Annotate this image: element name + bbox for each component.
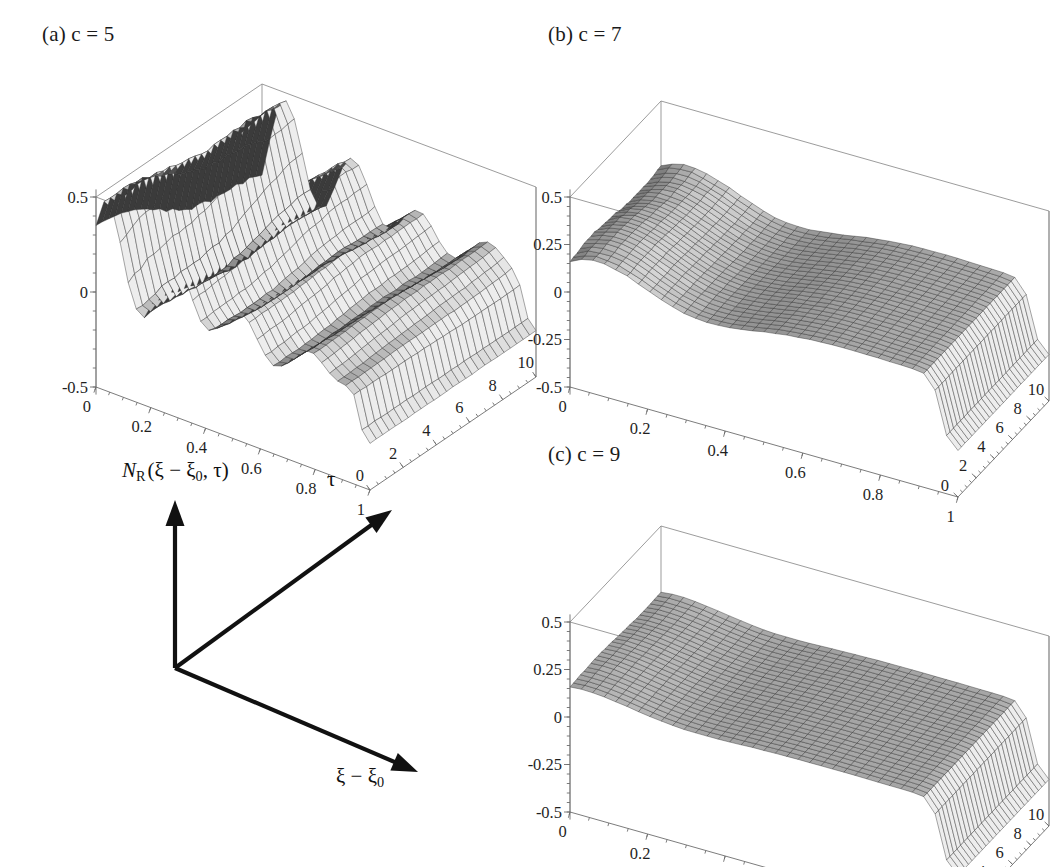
panel-a-plot: 0.50-0.500.20.40.60.810246810 [0, 0, 520, 430]
legend-N-subscript: R [136, 468, 146, 484]
figure-root: (a) c = 5 0.50-0.500.20.40.60.810246810 … [0, 0, 1057, 867]
z-tick-label: 0.5 [67, 188, 88, 207]
z-tick-label: 0.25 [533, 660, 562, 679]
z-tick-label: 0 [80, 283, 88, 302]
panel-b-label: (b) c = 7 [548, 22, 622, 47]
legend-arg-tail: , τ) [203, 458, 229, 482]
axis-orientation-legend: NR(ξ − ξ0, τ) τ ξ − ξ0 [0, 432, 520, 867]
panel-b: (b) c = 7 0.50.250-0.25-0.500.20.40.60.8… [520, 0, 1057, 430]
legend-xi-axis-label: ξ − ξ0 [336, 764, 384, 791]
panel-c-label: (c) c = 9 [548, 442, 621, 467]
legend-N-symbol: N [122, 458, 136, 482]
y-tick-label: 8 [489, 376, 497, 395]
y-tick-label: 6 [995, 843, 1003, 862]
legend-tau-axis-label: τ [327, 467, 335, 492]
panel-b-plot: 0.50.250-0.25-0.500.20.40.60.810246810 [520, 0, 1057, 430]
y-tick-label: 4 [977, 862, 985, 867]
panel-a-label: (a) c = 5 [42, 22, 115, 47]
legend-xi-main: ξ − ξ [336, 764, 377, 788]
z-tick-label: -0.5 [536, 378, 562, 397]
legend-xi-arrow [175, 668, 418, 772]
axis-legend-arrows [0, 432, 520, 867]
z-tick-label: -0.5 [536, 803, 562, 822]
z-tick-label: -0.5 [62, 378, 88, 397]
x-tick-label: 0.2 [630, 844, 651, 863]
legend-tau-arrow [175, 510, 392, 668]
z-tick-label: 0.5 [541, 613, 562, 632]
legend-vertical-arrow [166, 500, 185, 668]
y-tick-label: 8 [1014, 824, 1022, 843]
x-tick-label: 0 [558, 397, 566, 416]
x-tick-label: 0 [558, 822, 566, 841]
legend-arg-subscript: 0 [196, 468, 203, 484]
z-tick-label: 0 [554, 283, 562, 302]
panel-c: (c) c = 9 0.50.250-0.25-0.500.20.40.60.8… [520, 432, 1057, 867]
y-tick-label: 6 [455, 398, 463, 417]
z-tick-label: -0.25 [528, 755, 562, 774]
legend-arg-open: (ξ − ξ [146, 458, 196, 482]
panel-a: (a) c = 5 0.50-0.500.20.40.60.810246810 [0, 0, 520, 430]
z-tick-label: 0.25 [533, 235, 562, 254]
y-tick-label: 10 [1028, 805, 1045, 824]
panel-c-plot: 0.50.250-0.25-0.500.20.40.60.810246810 [520, 432, 1057, 867]
y-tick-label: 8 [1014, 399, 1022, 418]
y-tick-label: 10 [1028, 380, 1045, 399]
legend-xi-subscript: 0 [377, 774, 384, 790]
z-tick-label: 0 [554, 708, 562, 727]
x-tick-label: 0 [83, 397, 91, 416]
legend-vertical-axis-label: NR(ξ − ξ0, τ) [122, 458, 229, 485]
z-tick-label: 0.5 [541, 188, 562, 207]
z-tick-label: -0.25 [528, 330, 562, 349]
